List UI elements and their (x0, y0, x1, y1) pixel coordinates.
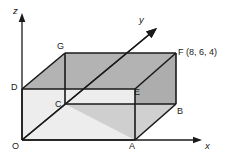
vertex-label-D: D (11, 82, 18, 92)
axis-z-arrowhead (19, 13, 26, 22)
vertex-label-F: F (8, 6, 4) (178, 47, 217, 57)
axis-label-y: y (139, 15, 144, 25)
vertex-label-E: E (134, 87, 140, 97)
vertex-label-B: B (177, 106, 183, 116)
vertex-label-O: O (12, 141, 19, 151)
axis-x-arrowhead (193, 137, 202, 143)
figure-canvas (0, 0, 229, 161)
axis-label-z: z (13, 6, 18, 16)
vertex-label-C: C (55, 99, 62, 109)
vertex-label-G: G (57, 41, 64, 51)
vertex-label-A: A (129, 141, 135, 151)
geometry-figure: O A B C D E G F (8, 6, 4) x y z (0, 0, 229, 161)
axis-label-x: x (205, 141, 210, 151)
